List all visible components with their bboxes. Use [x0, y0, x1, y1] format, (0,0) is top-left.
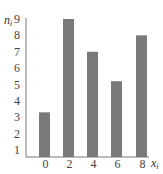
x-tick-label: 0	[43, 157, 49, 171]
x-tick-label: 4	[91, 157, 97, 171]
bars	[39, 19, 147, 157]
x-tick-label: 6	[115, 157, 121, 171]
y-axis-label: ni	[4, 13, 12, 28]
y-axis-ticks: 123456789	[14, 12, 20, 157]
y-tick-label: 8	[14, 28, 20, 42]
x-axis-ticks: 02468	[43, 157, 146, 171]
y-tick-label: 6	[14, 61, 20, 75]
y-tick-label: 4	[14, 94, 20, 108]
bar-8	[136, 35, 147, 157]
y-tick-label: 5	[14, 78, 20, 92]
bar-6	[111, 81, 122, 157]
y-tick-label: 9	[14, 12, 20, 26]
bar-0	[39, 112, 50, 157]
y-tick-label: 1	[14, 143, 20, 157]
y-tick-label: 7	[14, 45, 20, 59]
y-tick-label: 2	[14, 127, 20, 141]
bar-chart: 123456789 02468 ni xi	[0, 0, 163, 174]
y-tick-label: 3	[14, 110, 20, 124]
x-axis-label: xi	[150, 156, 159, 171]
x-tick-label: 8	[140, 157, 146, 171]
bar-2	[63, 19, 74, 157]
bar-4	[87, 52, 98, 157]
x-tick-label: 2	[67, 157, 73, 171]
